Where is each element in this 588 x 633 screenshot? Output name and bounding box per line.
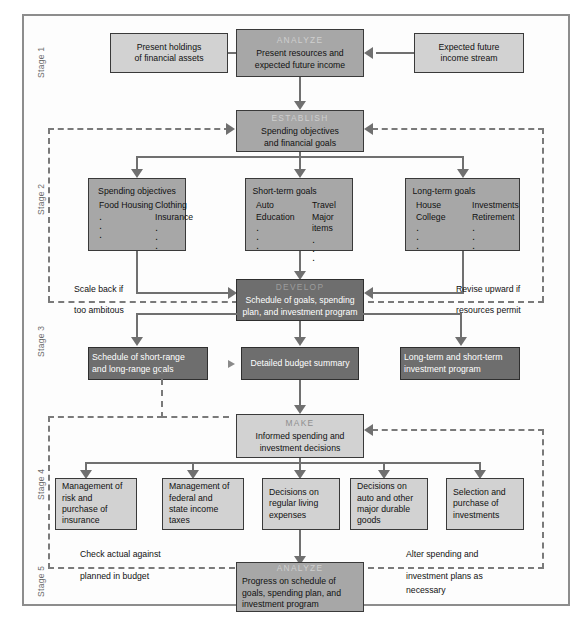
connector-budget-to-make xyxy=(299,380,301,408)
dashed-feedback-left-bottom xyxy=(48,301,238,303)
stage4-item-living-expenses: Decisions on regular living expenses xyxy=(262,478,340,530)
ellipsis-dots: ... xyxy=(472,223,519,250)
arrowhead-down-investment xyxy=(455,337,467,346)
arrowhead-right-establish-dashed xyxy=(226,123,235,135)
arrowhead-down-long-term xyxy=(457,169,469,178)
alter-spending-caption-line2: investment plans as xyxy=(406,570,483,583)
connector-spending-to-develop xyxy=(136,292,232,294)
stage4-item-taxes: Management of federal and state income t… xyxy=(162,478,244,530)
spending-objectives-col1: Food Housing ... xyxy=(99,200,155,250)
schedule-goals-box: Schedule of short-range and long-range g… xyxy=(88,347,208,380)
establish-box: ESTABLISH Spending objectives and financ… xyxy=(236,110,364,152)
stage-label-4: Stage 4 xyxy=(36,469,46,500)
arrowhead-left-develop-right xyxy=(364,287,373,299)
connector-develop-right-bus xyxy=(362,313,462,315)
detailed-budget-summary-box: Detailed budget summary xyxy=(241,347,359,380)
arrowhead-down-budget xyxy=(294,337,306,346)
stage4-item-1-text: Management of risk and purchase of insur… xyxy=(62,481,133,527)
develop-box-text: Schedule of goals, spending plan, and in… xyxy=(240,295,360,318)
expected-future-income-box: Expected future income stream xyxy=(414,33,524,73)
establish-box-head: ESTABLISH xyxy=(240,113,360,124)
detailed-budget-summary-text: Detailed budget summary xyxy=(245,358,355,369)
analyze-box-stage1: ANALYZE Present resources and expected f… xyxy=(236,29,364,77)
connector-make-bus xyxy=(85,462,481,464)
stage4-item-4-text: Decisions on auto and other major durabl… xyxy=(357,481,424,527)
establish-box-text: Spending objectives and financial goals xyxy=(240,126,360,149)
dashed-stage4-loop-top xyxy=(48,416,163,418)
long-term-goals-box: Long-term goals House College ... Invest… xyxy=(405,178,520,251)
revise-upward-caption-line1: Revise upward if xyxy=(456,283,520,296)
stage4-item-3-text: Decisions on regular living expenses xyxy=(269,487,336,521)
scale-back-caption-line2: too ambitous xyxy=(74,304,124,317)
ellipsis-dots: ... xyxy=(155,223,193,250)
connector-analyze-to-establish xyxy=(299,77,301,104)
connector-develop-right-down xyxy=(460,313,462,339)
ellipsis-dots: ... xyxy=(99,212,155,239)
arrowhead-down-schedule xyxy=(131,337,143,346)
connector-develop-left-down xyxy=(136,313,138,339)
spending-objectives-title: Spending objectives xyxy=(92,186,182,197)
spending-objectives-box: Spending objectives Food Housing ... Clo… xyxy=(88,178,186,251)
arrowhead-left-analyze xyxy=(364,47,373,59)
alter-spending-caption-line3: necessary xyxy=(406,584,446,597)
dashed-stage5-left-bottom xyxy=(48,567,235,569)
dashed-make-loop-vertical xyxy=(542,429,544,569)
ellipsis-dots: ... xyxy=(416,223,472,250)
arrowhead-left-establish-dashed xyxy=(364,123,373,135)
flowchart-figure: Stage 1 Stage 2 Stage 3 Stage 4 Stage 5 … xyxy=(0,0,588,633)
develop-box-head: DEVELOP xyxy=(240,282,360,293)
long-term-goals-col1: House College ... xyxy=(416,200,472,250)
arrowhead-down-spending-objectives xyxy=(131,169,143,178)
stage-label-5: Stage 5 xyxy=(36,566,46,597)
arrowhead-left-make-dashed xyxy=(364,424,373,436)
make-box: MAKE Informed spending and investment de… xyxy=(236,414,364,458)
alter-spending-caption-line1: Alter spending and xyxy=(406,548,478,561)
stage4-item-2-text: Management of federal and state income t… xyxy=(169,481,240,527)
short-term-goals-col1: Auto Education ... xyxy=(256,200,312,262)
make-box-head: MAKE xyxy=(240,418,360,429)
arrowhead-right-budget-dashed xyxy=(228,360,235,368)
present-holdings-box: Present holdings of financial assets xyxy=(110,33,228,73)
dashed-budget-loop-top xyxy=(161,416,229,418)
analyze-box-stage5-text: Progress on schedule of goals, spending … xyxy=(238,576,362,610)
dashed-budget-loop-vertical xyxy=(161,368,163,418)
stage4-item-5-text: Selection and purchase of investments xyxy=(453,487,520,521)
make-box-text: Informed spending and investment decisio… xyxy=(240,431,360,454)
schedule-goals-text: Schedule of short-range and long-range g… xyxy=(92,352,204,375)
stage4-item-risk-insurance: Management of risk and purchase of insur… xyxy=(55,478,137,530)
dashed-feedback-left-top xyxy=(48,128,230,130)
long-term-goals-col2: Investments Retirement ... xyxy=(472,200,519,250)
stage4-item-investments: Selection and purchase of investments xyxy=(446,478,524,530)
investment-program-text: Long-term and short-term investment prog… xyxy=(404,352,516,375)
check-actual-caption-line1: Check actual against xyxy=(80,548,161,561)
scale-back-caption-line1: Scale back if xyxy=(74,283,123,296)
connector-spending-down xyxy=(136,251,138,294)
long-term-goals-columns: House College ... Investments Retirement… xyxy=(409,200,516,250)
arrowhead-down-establish xyxy=(294,101,306,110)
long-term-goals-title: Long-term goals xyxy=(406,186,520,197)
ellipsis-dots: ... xyxy=(312,235,349,262)
arrowhead-down-make xyxy=(294,405,306,414)
analyze-box-stage5: ANALYZE Progress on schedule of goals, s… xyxy=(236,562,364,612)
dashed-stage4-loop-vertical xyxy=(48,416,50,569)
present-holdings-text: Present holdings of financial assets xyxy=(114,42,224,65)
revise-upward-caption-line2: resources permit xyxy=(456,304,521,317)
spending-objectives-col2: Clothing Insurance ... xyxy=(155,200,193,250)
ellipsis-dots: ... xyxy=(256,223,312,250)
spending-objectives-columns: Food Housing ... Clothing Insurance ... xyxy=(92,200,182,250)
investment-program-box: Long-term and short-term investment prog… xyxy=(400,347,520,380)
connector-income-to-analyze xyxy=(376,52,416,54)
dashed-make-loop-top xyxy=(372,429,544,431)
dashed-feedback-left-vertical xyxy=(48,128,50,302)
analyze-box-stage5-head: ANALYZE xyxy=(240,563,360,574)
dashed-feedback-right-vertical xyxy=(542,128,544,302)
stage-label-2: Stage 2 xyxy=(36,184,46,215)
expected-future-income-text: Expected future income stream xyxy=(418,42,520,65)
analyze-box-stage1-head: ANALYZE xyxy=(240,35,360,46)
arrowhead-down-short-term xyxy=(294,169,306,178)
check-actual-caption-line2: planned in budget xyxy=(80,570,149,583)
short-term-goals-title: Short-term goals xyxy=(246,186,353,197)
connector-develop-left-bus xyxy=(136,313,238,315)
stage-label-3: Stage 3 xyxy=(36,326,46,357)
dashed-feedback-right-bottom xyxy=(368,301,544,303)
